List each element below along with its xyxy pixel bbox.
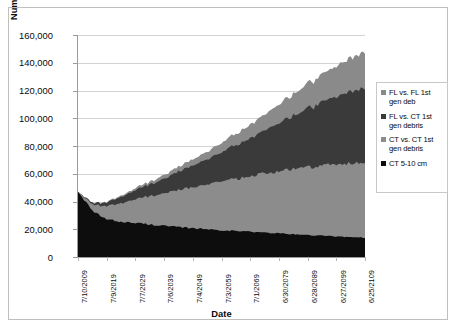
chart-frame: Number of objects in LEO (curves stacked… — [8, 7, 448, 320]
x-axis-tick — [78, 257, 79, 261]
x-axis-tick-label: 7/3/2059 — [225, 274, 233, 303]
legend-item[interactable]: CT 5-10 cm — [381, 159, 444, 168]
x-axis-tick-label: 7/6/2039 — [167, 274, 175, 303]
y-axis-tick-label: 40,000 — [0, 197, 53, 206]
x-axis-tick-label: 6/28/2089 — [311, 270, 319, 303]
x-axis-tick — [164, 257, 165, 261]
plot-area — [78, 35, 365, 257]
y-axis-tick-label: 0 — [0, 253, 53, 262]
legend-item-label: CT vs. CT 1stgen debris — [389, 135, 433, 154]
x-axis-tick-label: 7/9/2019 — [110, 274, 118, 303]
x-axis-tick-label: 7/1/2069 — [253, 274, 261, 303]
legend-swatch-icon — [381, 114, 386, 119]
legend-item[interactable]: FL vs. CT 1stgen debris — [381, 112, 444, 131]
x-axis-tick-label: 6/27/2099 — [340, 270, 348, 303]
legend-item[interactable]: FL vs. FL 1stgen deb — [381, 88, 444, 107]
x-axis-tick — [308, 257, 309, 261]
legend-swatch-icon — [381, 137, 386, 142]
x-axis-tick — [279, 257, 280, 261]
y-axis-tick-label: 80,000 — [0, 142, 53, 151]
x-axis-tick — [336, 257, 337, 261]
x-axis-tick — [222, 257, 223, 261]
y-axis-tick-label: 60,000 — [0, 169, 53, 178]
x-axis-tick-label: 6/25/2109 — [368, 270, 376, 303]
legend-item[interactable]: CT vs. CT 1stgen debris — [381, 135, 444, 154]
x-axis-tick — [193, 257, 194, 261]
y-axis-tick-label: 20,000 — [0, 225, 53, 234]
x-axis-tick — [365, 257, 366, 261]
y-axis-line — [77, 35, 78, 257]
y-axis-tick-label: 140,000 — [0, 58, 53, 67]
legend-item-label: CT 5-10 cm — [389, 159, 427, 168]
stacked-area-series — [78, 35, 365, 257]
legend-item-label: FL vs. FL 1stgen deb — [389, 88, 430, 107]
x-axis-title: Date — [78, 308, 365, 319]
legend-swatch-icon — [381, 161, 386, 166]
x-axis-tick-label: 7/10/2009 — [81, 270, 89, 303]
y-axis-tick-label: 100,000 — [0, 114, 53, 123]
chart-legend: FL vs. FL 1stgen debFL vs. CT 1stgen deb… — [376, 82, 448, 193]
legend-item-label: FL vs. CT 1stgen debris — [389, 112, 432, 131]
y-axis-tick-label: 120,000 — [0, 86, 53, 95]
x-axis-tick — [107, 257, 108, 261]
x-axis-tick — [250, 257, 251, 261]
legend-swatch-icon — [381, 90, 386, 95]
x-axis-tick — [135, 257, 136, 261]
y-axis-tick-label: 160,000 — [0, 31, 53, 40]
x-axis-tick-label: 6/30/2079 — [282, 270, 290, 303]
x-axis-tick-label: 7/7/2029 — [139, 274, 147, 303]
x-axis-tick-label: 7/4/2049 — [196, 274, 204, 303]
